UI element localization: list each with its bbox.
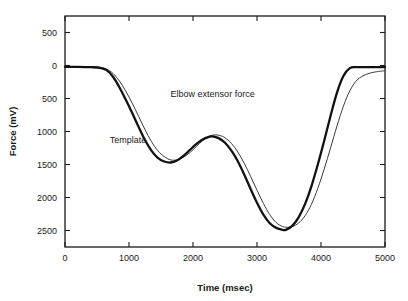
chart-svg: 0100020003000400050005000500100015002000… [0, 0, 408, 301]
y-tick-label: 1500 [37, 160, 57, 170]
plot-frame [65, 16, 385, 247]
y-axis-title: Force (mV) [7, 107, 18, 157]
y-tick-label: 1000 [37, 127, 57, 137]
annotation-elbow-extensor-force: Elbow extensor force [171, 89, 255, 99]
force-time-chart: 0100020003000400050005000500100015002000… [0, 0, 408, 301]
x-tick-label: 1000 [119, 253, 139, 263]
x-tick-label: 3000 [247, 253, 267, 263]
x-tick-label: 0 [62, 253, 67, 263]
y-tick-label: 2000 [37, 193, 57, 203]
y-tick-label: 500 [42, 28, 57, 38]
annotation-template: Template [110, 135, 147, 145]
x-tick-label: 2000 [183, 253, 203, 263]
x-tick-label: 4000 [311, 253, 331, 263]
x-axis-title: Time (msec) [197, 282, 252, 293]
x-tick-label: 5000 [375, 253, 395, 263]
y-tick-label: 0 [52, 61, 57, 71]
y-tick-label: 2500 [37, 226, 57, 236]
y-tick-label: 500 [42, 94, 57, 104]
